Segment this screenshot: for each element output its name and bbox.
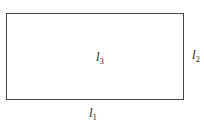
- label-l2: l2: [192, 48, 200, 64]
- label-l1: l1: [89, 106, 97, 122]
- rectangle: [6, 13, 184, 100]
- label-l3: l3: [96, 50, 104, 66]
